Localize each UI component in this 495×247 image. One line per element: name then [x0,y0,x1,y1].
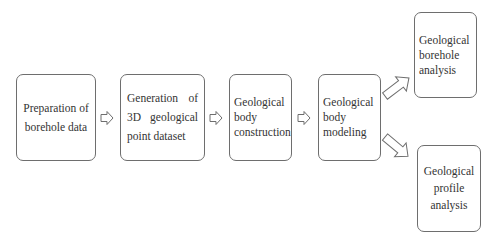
arrow-right-icon [101,112,113,125]
arrow-right-icon [210,112,222,125]
flowchart-canvas: Preparation of borehole data Generation … [0,0,495,247]
arrow-up-right-icon [380,71,415,103]
arrow-down-right-icon [379,130,414,163]
arrow-right-icon [298,112,310,125]
arrows-layer [0,0,495,247]
